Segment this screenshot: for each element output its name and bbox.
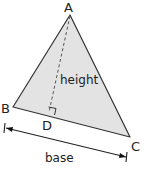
vertex-label-a: A	[64, 0, 73, 15]
triangle-diagram: A B C D height base	[0, 0, 145, 169]
vertex-label-b: B	[1, 101, 10, 116]
height-label: height	[60, 73, 99, 87]
vertex-label-c: C	[131, 139, 140, 154]
base-label: base	[45, 151, 74, 165]
vertex-label-d: D	[42, 118, 52, 133]
